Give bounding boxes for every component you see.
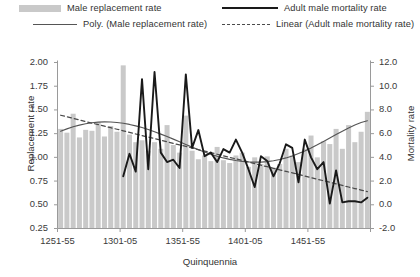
bar	[227, 163, 232, 228]
bar	[158, 149, 163, 229]
bar	[121, 65, 126, 228]
y-axis-right-tick-label: 12.0	[379, 56, 413, 67]
x-axis-tick-label: 1301-05	[90, 235, 150, 246]
bar	[290, 155, 295, 228]
bar	[208, 161, 213, 228]
bar	[258, 164, 263, 229]
bar	[240, 153, 245, 229]
bar	[277, 164, 282, 229]
bar	[152, 142, 157, 228]
bar	[359, 132, 364, 229]
y-axis-right-tick-label: 10.0	[379, 80, 413, 91]
bar	[114, 132, 119, 229]
x-axis-tick-label: 1351-55	[153, 235, 213, 246]
bar	[190, 151, 195, 229]
y-axis-right-tick-label: 2.0	[379, 175, 413, 186]
bar	[233, 155, 238, 228]
bar	[96, 122, 101, 228]
bar	[196, 159, 201, 228]
bar	[183, 116, 188, 229]
y-axis-left-tick-label: 0.25	[14, 222, 48, 233]
bar	[352, 142, 357, 228]
x-axis-title: Quinquennia	[0, 256, 420, 267]
bar	[302, 149, 307, 229]
bar	[140, 140, 145, 228]
bar	[321, 141, 326, 228]
y-axis-right-tick-label: 0.0	[379, 198, 413, 209]
bar	[108, 126, 113, 228]
y-axis-right-tick-label: 6.0	[379, 127, 413, 138]
y-axis-left-tick-label: 1.50	[14, 103, 48, 114]
y-axis-left-tick-label: 1.25	[14, 127, 48, 138]
x-axis-tick-label: 1401-05	[215, 235, 275, 246]
bar	[202, 155, 207, 228]
y-axis-left-tick-label: 1.00	[14, 151, 48, 162]
bar	[71, 114, 76, 229]
y-axis-right-tick-label: -2.0	[379, 222, 413, 233]
bar	[77, 137, 82, 228]
bar	[64, 133, 69, 229]
bar	[83, 130, 88, 229]
bar	[346, 125, 351, 228]
bar	[171, 145, 176, 228]
bar	[283, 149, 288, 229]
bar	[102, 136, 107, 228]
bar	[165, 125, 170, 228]
bar	[221, 160, 226, 228]
y-axis-left-tick-label: 1.75	[14, 80, 48, 91]
x-axis-tick-label: 1451-55	[278, 235, 338, 246]
bar	[58, 129, 63, 229]
bar	[127, 135, 132, 229]
y-axis-right-tick-label: 4.0	[379, 151, 413, 162]
y-axis-left-tick-label: 2.00	[14, 56, 48, 67]
bar	[365, 112, 370, 229]
y-axis-left-tick-label: 0.50	[14, 198, 48, 209]
chart-figure: Male replacement rate Poly. (Male replac…	[0, 0, 420, 277]
bar	[89, 131, 94, 229]
bar-series	[58, 65, 370, 228]
x-axis-tick-label: 1251-55	[28, 235, 88, 246]
bar	[309, 136, 314, 229]
y-axis-right-tick-label: 8.0	[379, 103, 413, 114]
y-axis-left-tick-label: 0.75	[14, 175, 48, 186]
bar	[252, 157, 257, 228]
